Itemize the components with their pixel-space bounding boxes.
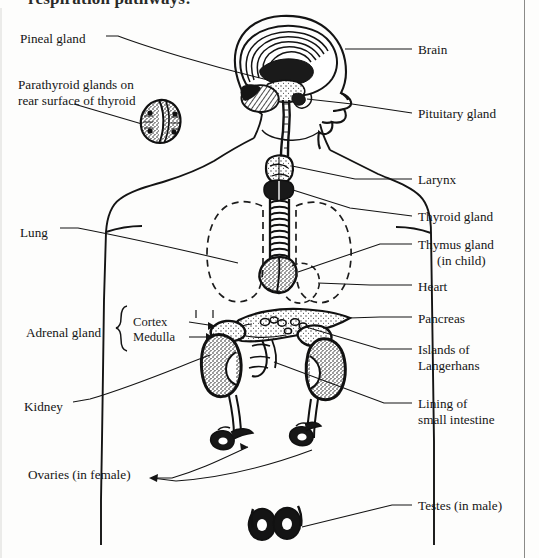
label-thymus-line2: (in child)	[418, 253, 538, 269]
label-pineal-gland: Pineal gland	[20, 31, 86, 47]
label-islands-line1: Islands of	[418, 342, 470, 357]
label-parathyroid-line1: Parathyroid glands on	[18, 77, 134, 92]
pituitary-gland	[292, 93, 305, 105]
label-ovaries-in-female: Ovaries (in female)	[28, 467, 131, 483]
thyroid-gland	[264, 180, 294, 200]
leader-heart	[318, 283, 412, 285]
leader-pancreas	[349, 317, 412, 318]
ovaries-arrow-cluster	[149, 474, 158, 482]
trachea	[270, 199, 289, 262]
leader-larynx	[292, 166, 412, 179]
label-lining-line1: Lining of	[418, 396, 467, 411]
label-pituitary-gland: Pituitary gland	[418, 106, 496, 122]
kidney-right	[306, 339, 345, 400]
leader-kidney	[73, 355, 210, 402]
label-lining-line2: small intestine	[418, 412, 495, 427]
leader-lung	[60, 228, 238, 263]
label-parathyroid-line2: rear surface of thyroid	[18, 93, 136, 108]
label-testes-in-male: Testes (in male)	[418, 498, 502, 514]
label-adrenal-gland: Adrenal gland	[26, 325, 101, 341]
ovary-left	[211, 427, 253, 450]
larynx	[266, 155, 293, 183]
label-kidney: Kidney	[24, 399, 63, 415]
ovary-right	[290, 422, 321, 445]
label-cortex: Cortex	[133, 315, 167, 330]
leader-testes	[302, 505, 412, 527]
label-thymus-gland: Thymus gland (in child)	[418, 237, 538, 268]
label-brain: Brain	[418, 42, 447, 58]
label-heart: Heart	[418, 279, 447, 295]
leader-thymus	[298, 244, 412, 272]
kidney-left	[201, 335, 241, 397]
label-thyroid-gland: Thyroid gland	[418, 209, 493, 225]
adrenal-brace	[116, 306, 127, 351]
label-pancreas: Pancreas	[418, 311, 465, 327]
label-islands-line2: Langerhans	[418, 358, 480, 373]
label-medulla: Medulla	[133, 330, 175, 345]
testis-left	[249, 509, 276, 540]
label-thymus-line1: Thymus gland	[418, 237, 494, 252]
thymus-gland	[259, 257, 296, 293]
leader-lines	[60, 36, 412, 527]
endocrine-diagram-page: respiration pathways:	[0, 0, 539, 558]
label-larynx: Larynx	[418, 172, 456, 188]
lung-outline-right	[296, 202, 351, 302]
label-lining-of-small-intestine: Lining of small intestine	[418, 396, 538, 427]
leader-pituitary	[307, 99, 412, 113]
label-islands-of-langerhans: Islands of Langerhans	[418, 342, 538, 373]
lung-outline-left	[207, 202, 263, 302]
label-parathyroid-glands: Parathyroid glands on rear surface of th…	[18, 77, 213, 108]
label-lung: Lung	[20, 225, 48, 241]
testis-right	[274, 506, 302, 539]
